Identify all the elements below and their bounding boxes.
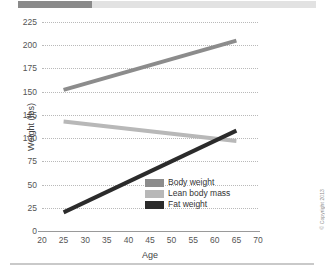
y-axis-tick-label: 25	[28, 204, 37, 213]
legend-color-swatch	[145, 201, 164, 209]
x-axis-line	[38, 231, 260, 232]
top-bar-light-segment	[92, 1, 316, 8]
legend-item: Body weight	[145, 177, 230, 188]
y-axis-tick-label: 125	[23, 111, 37, 120]
x-axis-tick-label: 55	[188, 236, 197, 245]
legend-item: Fat weight	[145, 199, 230, 210]
x-axis-tick-label: 20	[37, 236, 46, 245]
y-axis-tick-label: 225	[23, 18, 37, 27]
legend-color-swatch	[145, 179, 164, 187]
x-axis-tick-label: 70	[253, 236, 262, 245]
y-axis-tick-label: 75	[28, 157, 37, 166]
x-axis-tick-label: 35	[102, 236, 111, 245]
top-decorative-bar	[0, 0, 323, 9]
legend-color-swatch	[145, 190, 164, 198]
y-axis-tick-label: 175	[23, 64, 37, 73]
y-axis-tick-label: 0	[32, 227, 37, 236]
y-axis-tick-label: 100	[23, 134, 37, 143]
series-line	[64, 121, 237, 141]
top-bar-dark-segment	[18, 1, 92, 8]
series-line	[64, 41, 237, 90]
legend-label: Body weight	[168, 178, 214, 187]
x-axis-tick-label: 30	[80, 236, 89, 245]
chart-legend: Body weightLean body massFat weight	[145, 177, 230, 210]
x-axis-tick-label: 60	[210, 236, 219, 245]
x-axis-label: Age	[142, 250, 158, 260]
x-axis-tick-label: 25	[59, 236, 68, 245]
legend-label: Lean body mass	[168, 189, 230, 198]
legend-label: Fat weight	[168, 200, 207, 209]
y-axis-tick-label: 200	[23, 41, 37, 50]
x-axis-tick-label: 50	[167, 236, 176, 245]
y-axis-tick-label: 50	[28, 180, 37, 189]
y-axis-tick-label: 150	[23, 87, 37, 96]
x-axis-tick-label: 65	[232, 236, 241, 245]
x-axis-tick-label: 40	[124, 236, 133, 245]
chart-figure: Weight (lbs) Age 02550751001251501752002…	[0, 9, 323, 263]
x-axis-tick-label: 45	[145, 236, 154, 245]
bottom-divider-rule	[10, 263, 314, 265]
copyright-notice: © Copyright 2013	[319, 189, 325, 230]
legend-item: Lean body mass	[145, 188, 230, 199]
